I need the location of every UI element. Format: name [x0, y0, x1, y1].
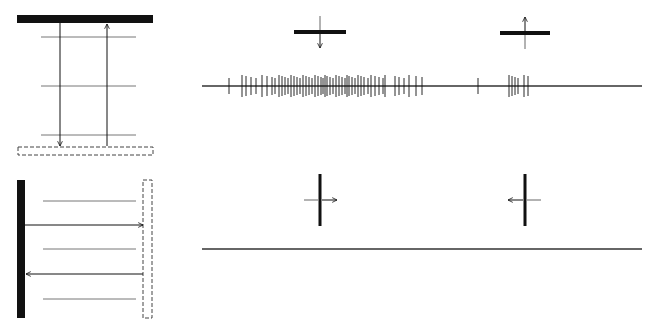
stimulus-bar	[524, 174, 527, 226]
top-spike-trace	[202, 75, 642, 97]
rightward-motion-icon	[304, 174, 337, 226]
solid-bar	[17, 180, 25, 318]
dashed-bar	[143, 180, 152, 318]
downward-motion-icon	[294, 16, 346, 48]
upward-motion-icon	[500, 17, 550, 49]
bottom-schematic-panel	[17, 180, 152, 318]
dashed-bar	[18, 147, 153, 155]
bottom-stimulus-icons	[304, 174, 541, 226]
top-schematic-panel	[17, 15, 153, 155]
stimulus-bar	[319, 174, 322, 226]
stimulus-bar	[294, 30, 346, 34]
direction-selectivity-figure	[0, 0, 659, 328]
solid-bar	[17, 15, 153, 23]
leftward-motion-icon	[508, 174, 541, 226]
stimulus-bar	[500, 31, 550, 35]
top-stimulus-icons	[294, 16, 550, 49]
